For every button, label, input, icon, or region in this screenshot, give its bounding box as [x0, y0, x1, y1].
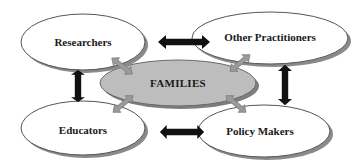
educators-label: Educators: [59, 124, 108, 136]
arrow-researchers-educators-icon: [71, 70, 85, 102]
arrow-educators-policy-makers-icon: [160, 125, 204, 139]
researchers-node: Researchers: [21, 14, 148, 73]
researchers-label: Researchers: [54, 36, 112, 48]
other-practitioners-label: Other Practitioners: [224, 31, 316, 43]
policy-makers-label: Policy Makers: [226, 125, 294, 137]
educators-node: Educators: [21, 101, 148, 158]
other-practitioners-node: Other Practitioners: [192, 12, 351, 67]
arrow-researchers-other-practitioners-icon: [158, 35, 210, 49]
families-relationship-diagram: FAMILIES Researchers Other Practitioners…: [0, 0, 360, 166]
arrow-other-practitioners-policy-makers-icon: [278, 65, 292, 106]
policy-makers-node: Policy Makers: [198, 105, 333, 160]
families-label: FAMILIES: [150, 77, 206, 89]
